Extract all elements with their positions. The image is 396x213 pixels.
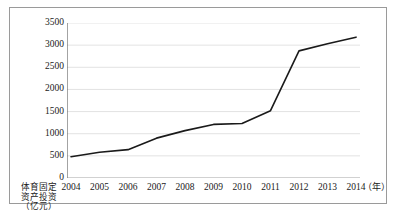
x-axis-tick-labels: （年） 200420052006200720082009201020112012… [67, 182, 387, 196]
x-tick-label: 2011 [261, 182, 280, 193]
series-line [71, 37, 356, 157]
x-tick-label: 2013 [318, 182, 337, 193]
y-tick-label: 3000 [18, 40, 64, 50]
y-tick-label: 1500 [18, 107, 64, 117]
x-tick-label: 2010 [233, 182, 252, 193]
x-tick-label: 2008 [176, 182, 195, 193]
x-tick-label: 2009 [204, 182, 223, 193]
y-tick-label: 1000 [18, 129, 64, 139]
x-tick-label: 2007 [147, 182, 166, 193]
line-chart-svg [67, 23, 360, 178]
y-tick-label: 500 [18, 151, 64, 161]
x-tick-label: 2012 [290, 182, 309, 193]
axis-lines [67, 23, 356, 178]
y-axis-title: 体育固定 资产投资 （亿元） [21, 183, 75, 212]
x-tick-label: 2014 [347, 182, 366, 193]
y-tick-label: 3500 [18, 18, 64, 28]
x-tick-label: 2006 [119, 182, 138, 193]
x-axis-unit-label: （年） [363, 182, 390, 193]
x-tick-label: 2005 [90, 182, 109, 193]
y-axis-tick-labels: 0500100015002000250030003500 [14, 23, 64, 178]
data-series-line [71, 37, 356, 157]
chart-figure-frame: 0500100015002000250030003500 （年） 2004200… [9, 7, 387, 204]
y-tick-label: 2500 [18, 62, 64, 72]
plot-area [67, 23, 360, 178]
y-axis-title-line-3: （亿元） [21, 202, 75, 212]
y-tick-label: 2000 [18, 84, 64, 94]
